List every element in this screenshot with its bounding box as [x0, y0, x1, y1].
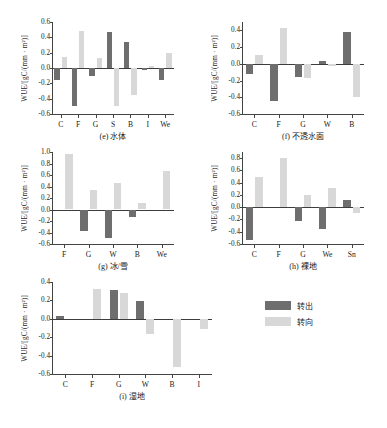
bar-f-F-转出	[270, 64, 277, 101]
x-tick-mark	[162, 245, 163, 248]
x-tick-mark	[279, 115, 280, 118]
x-axis-line: CFGWB	[242, 114, 364, 115]
x-tick-mark	[78, 115, 79, 118]
zero-baseline	[242, 64, 364, 65]
bar-g-F-转向	[65, 154, 72, 209]
bar-i-C-转出	[56, 316, 64, 319]
y-tick-label: -0.4	[229, 228, 240, 236]
x-tick-label: W	[324, 120, 331, 129]
x-tick-mark	[327, 245, 328, 248]
y-tick-label: 0.2	[41, 194, 50, 202]
y-axis-label: WUE/[gC/(mm · m²)]	[208, 152, 222, 244]
y-tick-label: -0.2	[39, 333, 50, 341]
y-axis-ticks: -0.6-0.4-0.20.00.20.40.60.8	[221, 152, 242, 244]
y-axis-ticks: -0.6-0.4-0.20.00.20.40.6	[31, 22, 52, 114]
y-tick-label: -0.6	[39, 110, 50, 118]
x-tick-label: C	[252, 120, 257, 129]
bar-e-B-转向	[131, 68, 136, 95]
bar-e-C-转出	[54, 68, 59, 80]
bar-g-W-转出	[105, 210, 112, 238]
y-axis-label-text: WUE/[gC/(mm · m²)]	[21, 165, 29, 232]
bar-h-Sn-转向	[353, 207, 360, 213]
x-tick-mark	[352, 245, 353, 248]
x-axis-line: CFGWeSn	[242, 244, 364, 245]
bar-e-I-转向	[149, 66, 154, 68]
x-tick-mark	[64, 245, 65, 248]
bar-f-B-转出	[343, 32, 350, 64]
x-tick-mark	[352, 115, 353, 118]
bar-e-F-转向	[79, 31, 84, 68]
bar-e-G-转出	[89, 68, 94, 76]
x-tick-label: B	[349, 120, 354, 129]
bar-g-G-转出	[80, 210, 87, 231]
x-tick-mark	[279, 245, 280, 248]
bar-f-W-转向	[328, 64, 335, 67]
bar-g-G-转向	[90, 190, 97, 210]
plot-area-f	[242, 22, 364, 114]
legend-swatch-in	[265, 317, 291, 326]
x-tick-mark	[65, 375, 66, 378]
x-tick-mark	[119, 375, 120, 378]
y-tick-label: 1.0	[41, 148, 50, 156]
chart-legend: 转出转向	[265, 300, 313, 332]
bar-g-B-转出	[129, 210, 136, 217]
x-tick-mark	[165, 115, 166, 118]
legend-label-out: 转出	[297, 300, 313, 311]
y-tick-label: -0.2	[39, 79, 50, 87]
bar-i-B-转向	[173, 319, 181, 367]
x-tick-label: S	[111, 120, 115, 129]
x-tick-label: G	[116, 380, 121, 389]
legend-item-in: 转向	[265, 316, 313, 327]
bar-g-We-转向	[163, 171, 170, 210]
x-tick-mark	[199, 375, 200, 378]
y-tick-label: 0.0	[41, 315, 50, 323]
x-tick-label: G	[300, 120, 305, 129]
x-tick-label: F	[276, 120, 280, 129]
panel-title-f: (f) 不透水面	[242, 130, 364, 141]
bar-i-W-转出	[136, 301, 144, 318]
bar-g-W-转向	[114, 183, 121, 209]
legend-swatch-out	[265, 301, 291, 310]
y-tick-label: 0.6	[41, 18, 50, 26]
x-tick-mark	[145, 375, 146, 378]
plot-area-g	[52, 152, 174, 244]
bar-e-C-转向	[62, 57, 67, 68]
x-tick-label: F	[76, 120, 80, 129]
y-tick-label: -0.4	[39, 229, 50, 237]
plot-area-h	[242, 152, 364, 244]
y-tick-label: 0.4	[41, 183, 50, 191]
panel-title-e: (e) 水体	[52, 130, 174, 141]
bar-e-B-转出	[124, 42, 129, 68]
y-axis-label-text: WUE/[gC/(mm · m²)]	[21, 35, 29, 102]
x-tick-mark	[172, 375, 173, 378]
y-tick-label: 0.0	[231, 60, 240, 68]
y-axis-label: WUE/[gC/(mm · m²)]	[18, 152, 32, 244]
x-tick-label: B	[128, 120, 133, 129]
legend-label-in: 转向	[297, 316, 313, 327]
bar-f-F-转向	[280, 28, 287, 64]
y-axis-label-text: WUE/[gC/(mm · m²)]	[21, 295, 29, 362]
y-axis-label-text: WUE/[gC/(mm · m²)]	[211, 35, 219, 102]
x-tick-label: G	[86, 250, 91, 259]
y-tick-label: -0.6	[229, 240, 240, 248]
x-tick-label: B	[135, 250, 140, 259]
y-tick-label: 0.2	[231, 191, 240, 199]
x-tick-mark	[327, 115, 328, 118]
x-tick-label: We	[322, 250, 332, 259]
y-tick-label: 0.4	[231, 179, 240, 187]
x-axis-line: CFGSBIWe	[52, 114, 174, 115]
y-tick-label: 0.8	[41, 160, 50, 168]
bar-f-G-转出	[295, 64, 302, 77]
x-tick-label: B	[169, 380, 174, 389]
bar-i-G-转出	[110, 290, 118, 319]
bar-i-I-转向	[200, 319, 208, 329]
bar-h-C-转出	[246, 207, 253, 240]
plot-area-e	[52, 22, 174, 114]
y-axis-ticks: -0.6-0.4-0.20.00.20.4	[31, 282, 52, 374]
y-tick-label: 0.6	[231, 166, 240, 174]
bar-f-C-转出	[246, 64, 253, 74]
x-tick-label: G	[300, 250, 305, 259]
panel-title-h: (h) 裸地	[242, 260, 364, 271]
x-tick-mark	[254, 115, 255, 118]
y-axis-label: WUE/[gC/(mm · m²)]	[208, 22, 222, 114]
